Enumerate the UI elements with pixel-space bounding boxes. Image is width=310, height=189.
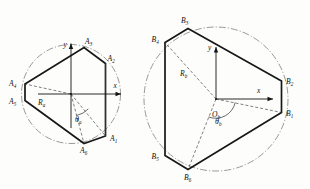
label-a6: A6 [79, 146, 88, 156]
figure-svg: A1 A2 A3 A4 A5 A6 x y Ra θa B1 B2 B3 B4 … [0, 0, 310, 189]
radius-label-b: Rb [179, 69, 188, 79]
label-a3: A3 [84, 37, 93, 47]
label-b2: B2 [286, 77, 294, 87]
right-diagram-group [144, 27, 288, 171]
label-a5: A5 [8, 97, 17, 107]
label-b5: B5 [152, 152, 160, 162]
radius-b-to-b1 [216, 99, 282, 113]
label-b6: B6 [184, 173, 192, 183]
origin-dot-a [70, 93, 72, 95]
origin-label-b: Ob [212, 110, 220, 120]
y-axis-label-a: y [63, 40, 68, 49]
label-b3: B3 [181, 16, 189, 26]
origin-dot-b [215, 98, 217, 100]
angle-label-a: θa [75, 115, 82, 125]
hexagon-a-outline [25, 48, 106, 144]
label-a4: A4 [8, 79, 17, 89]
x-axis-label-a: x [113, 81, 118, 90]
label-b4: B4 [152, 35, 160, 45]
left-diagram-group [22, 44, 122, 144]
technical-figure: A1 A2 A3 A4 A5 A6 x y Ra θa B1 B2 B3 B4 … [0, 0, 310, 189]
label-a1: A1 [109, 134, 117, 144]
radius-label-a: Ra [37, 98, 46, 108]
y-axis-label-b: y [207, 43, 212, 52]
x-axis-label-b: x [256, 86, 261, 95]
label-b1: B1 [286, 109, 293, 119]
radius-a-to-a4 [25, 84, 71, 94]
label-a2: A2 [107, 54, 116, 64]
x-axis-arrow-b [268, 97, 274, 101]
y-axis-arrow-b [214, 47, 218, 53]
